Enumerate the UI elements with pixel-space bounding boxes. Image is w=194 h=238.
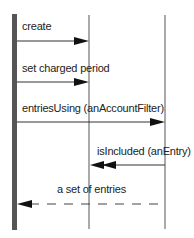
sequence-diagram — [0, 0, 194, 238]
message-create-arrow — [17, 37, 89, 45]
message-label-set-charged-period: set charged period — [22, 62, 110, 74]
activation-bar — [12, 14, 17, 230]
message-return-set-arrow — [17, 200, 165, 208]
message-label-entries-using: entriesUsing (anAccountFilter) — [22, 102, 164, 114]
message-set-charged-period-arrow — [17, 78, 89, 86]
message-label-return-set: a set of entries — [57, 183, 126, 195]
message-label-is-included: isIncluded (anEntry) — [97, 145, 191, 157]
message-label-create: create — [22, 20, 51, 32]
message-is-included-arrow — [90, 161, 165, 169]
message-entries-using-arrow — [17, 118, 165, 126]
